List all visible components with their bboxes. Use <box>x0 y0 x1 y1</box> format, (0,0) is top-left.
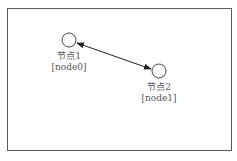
node-0-name: 节点1 <box>49 51 89 62</box>
node-1-name: 节点2 <box>139 82 179 93</box>
node-1-circle[interactable] <box>152 64 166 78</box>
node-0-label: 节点1 [node0] <box>49 51 89 73</box>
node-1-label: 节点2 [node1] <box>139 82 179 104</box>
diagram-canvas <box>0 0 237 161</box>
node-0-circle[interactable] <box>62 33 76 47</box>
node-1-id: [node1] <box>139 93 179 104</box>
node-0-id: [node0] <box>49 62 89 73</box>
